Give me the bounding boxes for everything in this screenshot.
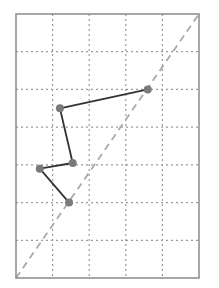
data-point-marker xyxy=(36,165,44,173)
diagonal-dashed-line xyxy=(16,14,199,278)
data-point-marker xyxy=(65,199,73,207)
path-line xyxy=(40,89,148,202)
data-point-marker xyxy=(56,104,64,112)
chart-canvas xyxy=(0,0,219,288)
data-point-marker xyxy=(69,159,77,167)
data-point-marker xyxy=(144,85,152,93)
chart xyxy=(0,0,219,288)
diagonal-reference-line xyxy=(16,14,199,278)
